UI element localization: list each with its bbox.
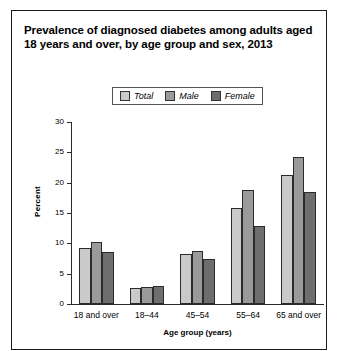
bar — [130, 288, 142, 304]
figure-panel: Prevalence of diagnosed diabetes among a… — [11, 10, 327, 350]
x-axis-title: Age group (years) — [71, 328, 324, 337]
bar — [293, 157, 305, 304]
y-tick-label: 10 — [45, 238, 64, 247]
bar — [91, 242, 103, 304]
bar — [242, 190, 254, 304]
y-tick-mark — [67, 183, 71, 184]
bar — [281, 175, 293, 304]
bar — [203, 259, 215, 304]
y-tick-mark — [67, 122, 71, 123]
bar — [153, 286, 165, 304]
bar — [304, 192, 316, 304]
y-tick-label: 15 — [45, 208, 64, 217]
plot-area: 051015202530 18 and over18–4445–5455–646… — [71, 122, 324, 304]
y-tick-label: 0 — [45, 299, 64, 308]
bar — [231, 208, 243, 304]
y-axis-line — [71, 122, 72, 304]
plot-wrapper: Percent 051015202530 18 and over18–4445–… — [12, 11, 328, 351]
y-tick-mark — [67, 213, 71, 214]
x-tick-label: 65 and over — [259, 310, 339, 320]
bar — [192, 251, 204, 304]
x-axis-line — [71, 304, 324, 305]
y-tick-label: 25 — [45, 147, 64, 156]
y-tick-mark — [67, 304, 71, 305]
y-tick-mark — [67, 274, 71, 275]
bar — [79, 248, 91, 304]
y-tick-mark — [67, 152, 71, 153]
y-axis-title: Percent — [33, 172, 42, 232]
bar — [180, 254, 192, 304]
y-tick-label: 5 — [45, 269, 64, 278]
y-tick-label: 20 — [45, 178, 64, 187]
bar — [141, 287, 153, 304]
y-tick-label: 30 — [45, 117, 64, 126]
y-tick-mark — [67, 243, 71, 244]
bar — [254, 226, 266, 304]
bar — [102, 252, 114, 304]
